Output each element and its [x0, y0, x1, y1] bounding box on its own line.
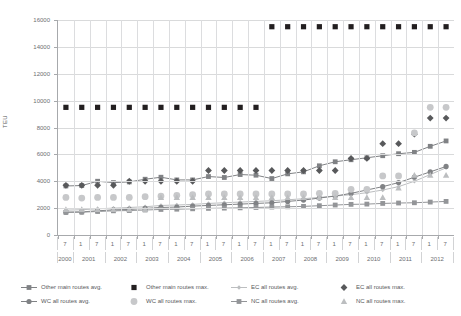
data-point-marker: [268, 167, 275, 174]
data-point-marker: [238, 105, 243, 110]
gridline-vertical: [264, 20, 265, 235]
series-line: [66, 141, 446, 186]
y-tick-label: 16000: [22, 17, 50, 23]
gridline-vertical: [137, 20, 138, 235]
data-point-marker: [253, 105, 258, 110]
legend-label: EC all routes max.: [356, 283, 405, 292]
y-tick-label: 4000: [22, 178, 50, 184]
data-point-marker: [380, 201, 385, 206]
x-tick-label-year: 2009: [325, 256, 359, 262]
data-point-marker: [63, 105, 68, 110]
x-tick-mark: [153, 235, 154, 239]
x-axis-year-separator: [200, 252, 201, 263]
x-tick-mark: [74, 235, 75, 239]
x-tick-mark: [185, 235, 186, 239]
data-point-marker: [412, 24, 417, 29]
gridline-vertical: [216, 20, 217, 235]
x-axis-year-separator: [263, 252, 264, 263]
gridline-horizontal: [58, 101, 454, 102]
x-axis-year-separator: [421, 252, 422, 263]
data-point-marker: [127, 105, 132, 110]
data-point-marker: [205, 167, 212, 174]
x-tick-mark: [359, 235, 360, 239]
x-axis-year-separator: [136, 252, 137, 263]
chart-legend: Other main routes avg.Other main routes …: [20, 281, 450, 309]
data-point-marker: [443, 104, 450, 111]
x-tick-label-year: 2007: [262, 256, 296, 262]
x-axis-cell-separator: [405, 237, 406, 250]
gridline-horizontal: [58, 20, 454, 21]
gridline-vertical: [406, 20, 407, 235]
x-axis-cell-separator: [152, 237, 153, 250]
x-tick-mark: [343, 235, 344, 239]
x-tick-mark: [391, 235, 392, 239]
x-tick-mark: [90, 235, 91, 239]
y-tick-label: 12000: [22, 71, 50, 77]
legend-label: Other main routes avg.: [41, 283, 102, 292]
x-tick-mark: [106, 235, 107, 239]
legend-item[interactable]: Other main routes max.: [125, 281, 230, 294]
data-point-marker: [411, 129, 418, 136]
data-point-marker: [443, 164, 448, 169]
legend-item[interactable]: EC all routes max.: [335, 281, 440, 294]
data-point-marker: [428, 200, 433, 205]
gridline-vertical: [438, 20, 439, 235]
gridline-horizontal: [58, 154, 454, 155]
legend-item[interactable]: WC all routes max.: [125, 295, 230, 308]
data-point-marker: [111, 105, 116, 110]
data-point-marker: [142, 193, 149, 200]
data-point-marker: [427, 104, 434, 111]
y-axis-ticks: 0200040006000800010000120001400016000: [0, 0, 50, 316]
legend-item[interactable]: WC all routes avg.: [20, 295, 125, 308]
data-point-marker: [332, 167, 339, 174]
gridline-vertical: [375, 20, 376, 235]
gridline-vertical: [280, 20, 281, 235]
data-point-marker: [174, 105, 179, 110]
x-axis-cell-separator: [295, 237, 296, 250]
data-point-marker: [333, 203, 338, 208]
x-axis-cell-separator: [437, 237, 438, 250]
data-point-marker: [364, 24, 369, 29]
x-axis-year-separator: [57, 252, 58, 263]
legend-marker-icon: [230, 283, 248, 292]
data-point-marker: [333, 24, 338, 29]
data-point-marker: [396, 24, 401, 29]
data-point-marker: [206, 174, 211, 179]
y-axis-title: TEU: [2, 115, 8, 128]
x-axis-cell-separator: [390, 237, 391, 250]
legend-marker-icon: [335, 283, 353, 292]
legend-label: Other main routes max.: [146, 283, 209, 292]
data-point-marker: [428, 24, 433, 29]
data-point-marker: [348, 24, 353, 29]
data-point-marker: [428, 144, 433, 149]
legend-item[interactable]: Other main routes avg.: [20, 281, 125, 294]
x-axis-cell-separator: [215, 237, 216, 250]
gridline-vertical: [201, 20, 202, 235]
legend-item[interactable]: EC all routes avg.: [230, 281, 335, 294]
x-tick-mark: [248, 235, 249, 239]
x-axis-year-separator: [453, 252, 454, 263]
legend-item[interactable]: NC all routes avg.: [230, 295, 335, 308]
legend-marker-icon: [230, 297, 248, 306]
x-axis-cell-separator: [184, 237, 185, 250]
y-tick-label: 8000: [22, 125, 50, 131]
data-point-marker: [349, 202, 354, 207]
x-tick-label-year: 2004: [167, 256, 201, 262]
gridline-horizontal: [58, 208, 454, 209]
legend-item[interactable]: NC all routes max.: [335, 295, 440, 308]
data-point-marker: [348, 186, 355, 193]
gridline-vertical: [311, 20, 312, 235]
legend-label: EC all routes avg.: [251, 283, 298, 292]
gridline-vertical: [327, 20, 328, 235]
data-point-marker: [190, 105, 195, 110]
y-tick-label: 6000: [22, 151, 50, 157]
x-tick-mark: [58, 235, 59, 239]
data-point-marker: [364, 194, 370, 200]
gridline-horizontal: [58, 128, 454, 129]
x-tick-mark: [311, 235, 312, 239]
x-tick-mark: [280, 235, 281, 239]
x-axis-cell-separator: [231, 237, 232, 250]
legend-marker-icon: [335, 297, 353, 306]
data-point-marker: [412, 200, 417, 205]
gridline-vertical: [422, 20, 423, 235]
